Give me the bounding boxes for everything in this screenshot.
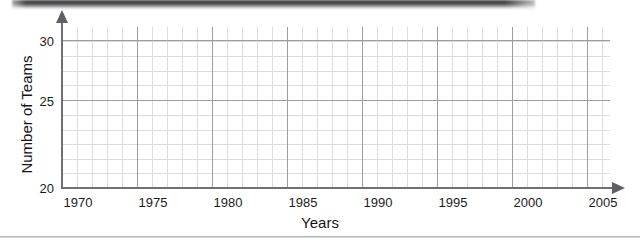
page-bottom-rule [0, 236, 640, 238]
scan-shadow-fade-right [505, 0, 551, 9]
x-tick-label-1990: 1990 [350, 196, 406, 209]
x-axis-title: Years [0, 215, 640, 230]
y-axis-arrow-icon [56, 10, 68, 23]
x-axis-arrow-icon [612, 182, 625, 194]
scan-shadow-fade-left [0, 0, 26, 9]
x-tick-label-1995: 1995 [425, 196, 481, 209]
y-axis-line [61, 22, 63, 189]
x-tick-label-2000: 2000 [500, 196, 556, 209]
y-axis-title: Number of Teams [19, 40, 34, 190]
x-tick-label-2005: 2005 [575, 196, 631, 209]
x-tick-label-1975: 1975 [125, 196, 181, 209]
x-axis-line [62, 187, 615, 189]
x-tick-label-1970: 1970 [50, 196, 106, 209]
x-tick-label-1985: 1985 [275, 196, 331, 209]
scan-shadow-band [12, 0, 535, 9]
chart-figure: 30 25 20 1970 1975 1980 1985 1990 1995 2… [0, 0, 640, 242]
plot-area [62, 27, 610, 188]
x-tick-label-1980: 1980 [200, 196, 256, 209]
grid-lines [62, 27, 610, 188]
